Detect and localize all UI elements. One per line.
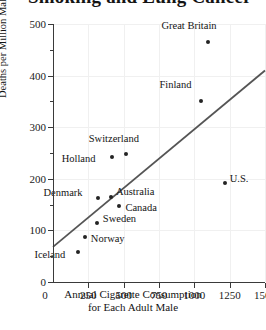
plot-area: Great BritainFinlandU.S.SwitzerlandHolla… xyxy=(53,24,265,283)
scatter-plot-figure: Smoking and Lung Cancer Great BritainFin… xyxy=(0,0,266,330)
data-point-label: Sweden xyxy=(103,214,136,225)
x-axis-title-line2: for Each Adult Male xyxy=(0,301,266,314)
y-tick xyxy=(48,230,53,231)
data-point-label: Denmark xyxy=(44,188,83,199)
data-point xyxy=(109,195,113,199)
gridline-vertical xyxy=(265,24,266,282)
y-tick-label: 100 xyxy=(30,225,47,236)
data-point xyxy=(95,221,99,225)
data-point-label: Australia xyxy=(116,187,155,198)
data-point-label: Holland xyxy=(62,154,96,165)
data-point-label: Finland xyxy=(159,80,191,91)
x-axis-title: Annual Cigarette Consumption for Each Ad… xyxy=(0,288,266,314)
figure-title: Smoking and Lung Cancer xyxy=(28,0,252,8)
y-tick xyxy=(48,24,53,25)
data-point-label: Norway xyxy=(91,234,125,245)
y-tick-minor xyxy=(50,256,53,257)
data-point xyxy=(223,181,227,185)
data-point xyxy=(110,155,114,159)
data-point-label: Great Britain xyxy=(161,21,216,32)
x-axis-title-line1: Annual Cigarette Consumption xyxy=(0,288,266,301)
y-tick-label: 300 xyxy=(30,122,47,133)
y-tick xyxy=(48,179,53,180)
y-tick-label: 0 xyxy=(41,277,47,288)
data-point-label: Switzerland xyxy=(89,134,139,145)
y-tick xyxy=(48,282,53,283)
y-tick xyxy=(48,76,53,77)
y-tick-minor xyxy=(50,153,53,154)
cut-off-title-strip: Smoking and Lung Cancer xyxy=(0,0,266,12)
y-tick-label: 400 xyxy=(30,70,47,81)
y-tick-label: 200 xyxy=(30,173,47,184)
data-point-label: Canada xyxy=(125,203,157,214)
y-tick-minor xyxy=(50,50,53,51)
data-point-label: U.S. xyxy=(230,174,249,185)
y-axis-line xyxy=(53,24,54,283)
y-tick-minor xyxy=(50,205,53,206)
y-tick xyxy=(48,127,53,128)
data-point xyxy=(83,235,87,239)
y-tick-minor xyxy=(50,101,53,102)
data-point xyxy=(124,152,128,156)
y-tick-label: 500 xyxy=(30,19,47,30)
y-axis-title: Deaths per Million Males from Lung Cance… xyxy=(0,0,8,98)
